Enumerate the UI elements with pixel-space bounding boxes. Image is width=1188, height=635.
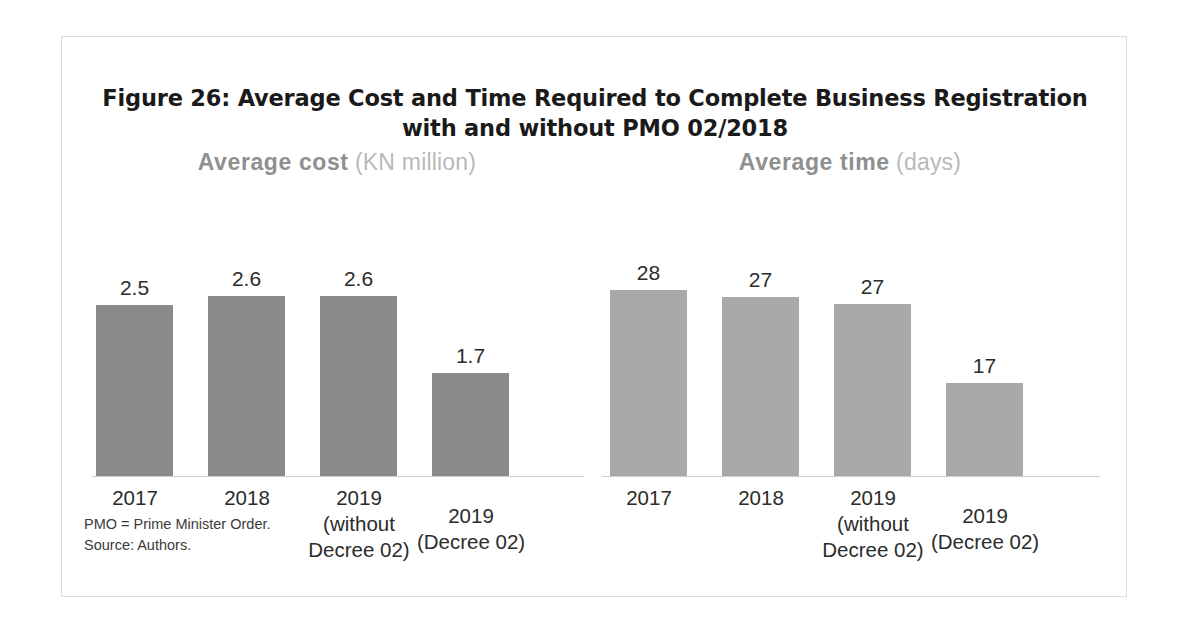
- bar-group-time-2019-without-decree: 27: [834, 200, 911, 476]
- footnote-source: Source: Authors.: [84, 535, 271, 556]
- bar-group-time-2018: 27: [722, 200, 799, 476]
- x-axis-line: [602, 476, 1100, 477]
- category-line: (Decree 02): [920, 529, 1050, 555]
- chart-panel-average-cost: Average cost (KN million) 2.5 2.6 2.6 1.…: [82, 147, 592, 577]
- bar-value-time-2019-without-decree: 27: [812, 275, 933, 299]
- figure-title-line-1: Figure 26: Average Cost and Time Require…: [90, 83, 1100, 113]
- bar-value-cost-2019-decree: 1.7: [410, 344, 531, 368]
- bar-group-cost-2018: 2.6: [208, 200, 285, 476]
- plot-area-average-cost: 2.5 2.6 2.6 1.7: [82, 201, 592, 477]
- category-label-cost-2017: 2017: [70, 485, 200, 511]
- bar-value-cost-2017: 2.5: [74, 276, 195, 300]
- category-line: 2018: [696, 485, 826, 511]
- category-line: Decree 02): [808, 537, 938, 563]
- category-line: Decree 02): [294, 537, 424, 563]
- figure-title-line-2: with and without PMO 02/2018: [90, 113, 1100, 143]
- bar-group-cost-2019-decree: 1.7: [432, 200, 509, 476]
- panel-subtitle-strong: Average cost: [198, 149, 349, 175]
- panel-subtitle-unit: (days): [896, 149, 961, 175]
- panel-subtitle-strong: Average time: [739, 149, 890, 175]
- category-label-cost-2018: 2018: [182, 485, 312, 511]
- category-label-cost-2019-without-decree: 2019 (without Decree 02): [294, 485, 424, 563]
- category-line: 2018: [182, 485, 312, 511]
- category-line: 2019: [920, 503, 1050, 529]
- bar-group-time-2017: 28: [610, 200, 687, 476]
- bar-time-2019-decree: [946, 383, 1023, 476]
- bar-group-cost-2017: 2.5: [96, 200, 173, 476]
- bar-time-2017: [610, 290, 687, 476]
- category-line: (without: [808, 511, 938, 537]
- panel-subtitle-unit: (KN million): [355, 149, 476, 175]
- figure-title: Figure 26: Average Cost and Time Require…: [90, 83, 1100, 143]
- figure-frame: Figure 26: Average Cost and Time Require…: [61, 36, 1127, 597]
- category-label-time-2018: 2018: [696, 485, 826, 511]
- bar-time-2018: [722, 297, 799, 476]
- category-label-cost-2019-decree: 2019 (Decree 02): [406, 503, 536, 555]
- panel-subtitle-average-time: Average time (days): [592, 147, 1108, 177]
- chart-panel-average-time: Average time (days) 28 27 27 17: [592, 147, 1108, 577]
- bar-value-time-2019-decree: 17: [924, 354, 1045, 378]
- bar-value-cost-2018: 2.6: [186, 267, 307, 291]
- bar-time-2019-without-decree: [834, 304, 911, 476]
- bar-value-time-2018: 27: [700, 268, 821, 292]
- plot-area-average-time: 28 27 27 17: [592, 201, 1108, 477]
- category-line: 2019: [294, 485, 424, 511]
- bar-value-cost-2019-without-decree: 2.6: [298, 267, 419, 291]
- bar-cost-2017: [96, 305, 173, 476]
- bar-cost-2018: [208, 296, 285, 476]
- category-line: 2017: [584, 485, 714, 511]
- category-line: (without: [294, 511, 424, 537]
- category-line: 2019: [406, 503, 536, 529]
- category-line: 2017: [70, 485, 200, 511]
- category-label-time-2019-without-decree: 2019 (without Decree 02): [808, 485, 938, 563]
- category-label-time-2019-decree: 2019 (Decree 02): [920, 503, 1050, 555]
- bar-cost-2019-decree: [432, 373, 509, 476]
- x-axis-line: [92, 476, 584, 477]
- bar-cost-2019-without-decree: [320, 296, 397, 476]
- bar-group-cost-2019-without-decree: 2.6: [320, 200, 397, 476]
- panel-subtitle-average-cost: Average cost (KN million): [82, 147, 592, 177]
- bar-group-time-2019-decree: 17: [946, 200, 1023, 476]
- category-label-time-2017: 2017: [584, 485, 714, 511]
- category-labels-average-time: 2017 2018 2019 (without Decree 02) 2019 …: [592, 485, 1108, 577]
- figure-footnotes: PMO = Prime Minister Order. Source: Auth…: [84, 514, 271, 556]
- bar-value-time-2017: 28: [588, 261, 709, 285]
- category-line: 2019: [808, 485, 938, 511]
- footnote-abbreviation: PMO = Prime Minister Order.: [84, 514, 271, 535]
- category-line: (Decree 02): [406, 529, 536, 555]
